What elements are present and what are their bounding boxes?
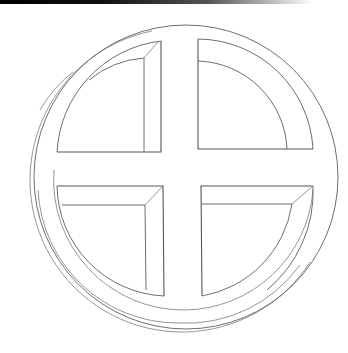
front-inner-ring-arc [54,170,313,310]
quadrant-top-right [198,39,313,149]
front-outer-ring [34,25,338,329]
quadrant-bottom-left [57,186,164,296]
quadrant-bottom-right [201,186,313,296]
quadrant-top-left [40,41,161,152]
sun-cross-drawing [0,0,348,353]
back-inner-ring-arc [38,190,300,323]
